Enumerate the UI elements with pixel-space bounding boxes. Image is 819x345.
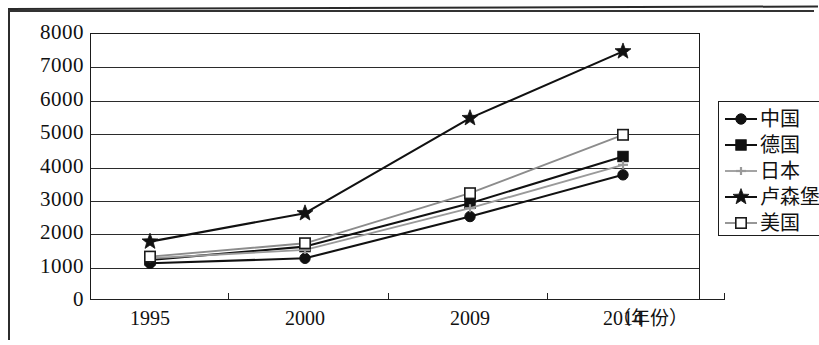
y-axis-tick-label: 6000 [10, 89, 84, 110]
y-axis-tick-label: 1000 [10, 256, 84, 277]
data-point-marker [736, 114, 746, 124]
data-point-marker [142, 233, 158, 248]
legend-item-日本[interactable]: 日本 [724, 158, 800, 184]
data-point-marker [300, 238, 310, 248]
data-point-marker [465, 188, 475, 198]
legend-item-德国[interactable]: 德国 [724, 132, 800, 158]
data-point-marker [615, 43, 631, 58]
legend-item-label: 日本 [760, 161, 800, 181]
x-axis-line [90, 299, 725, 300]
legend-item-label: 美国 [760, 213, 800, 233]
y-axis: 010002000300040005000600070008000 [6, 0, 84, 345]
legend-marker-filled-star-icon [724, 188, 758, 206]
line-chart: 010002000300040005000600070008000 199520… [0, 0, 819, 345]
data-point-marker [465, 211, 475, 221]
data-point-marker [145, 251, 155, 261]
y-axis-tick-label: 3000 [10, 189, 84, 210]
x-axis-tick-label: 1995 [130, 306, 170, 330]
legend-item-中国[interactable]: 中国 [724, 106, 800, 132]
x-axis-tickmark [388, 293, 389, 300]
data-point-marker [736, 167, 746, 175]
series-美国 [145, 130, 628, 262]
legend-marker-gray-cross-icon [724, 162, 758, 180]
legend-marker-open-square-icon [724, 214, 758, 232]
data-point-marker [300, 253, 310, 263]
y-axis-tick-label: 8000 [10, 22, 84, 43]
x-axis: 1995200020092014 [0, 306, 819, 338]
x-axis-tick-label: 2009 [450, 306, 490, 330]
legend-marker-filled-circle-icon [724, 110, 758, 128]
x-axis-tickmark [228, 293, 229, 300]
y-axis-tick-label: 4000 [10, 156, 84, 177]
legend-item-label: 中国 [760, 109, 800, 129]
y-axis-tick-label: 2000 [10, 222, 84, 243]
data-point-marker [733, 189, 749, 204]
data-point-marker [618, 151, 628, 161]
chart-legend: 中国德国日本卢森堡美国 [718, 101, 819, 236]
data-point-marker [736, 140, 746, 150]
legend-item-美国[interactable]: 美国 [724, 210, 800, 236]
series-德国 [145, 151, 628, 265]
y-axis-tick-label: 7000 [10, 55, 84, 76]
x-axis-tickmark [547, 293, 548, 300]
data-point-marker [618, 130, 628, 140]
data-point-marker [297, 205, 313, 220]
y-axis-tick-label: 5000 [10, 122, 84, 143]
x-axis-end-tickmark [724, 293, 725, 300]
legend-item-卢森堡[interactable]: 卢森堡 [724, 184, 819, 210]
legend-marker-filled-square-icon [724, 136, 758, 154]
series-layer [90, 33, 700, 300]
data-point-marker [736, 218, 746, 228]
legend-item-label: 卢森堡 [760, 187, 819, 207]
data-point-marker [618, 170, 628, 180]
x-axis-title: （年份） [612, 305, 688, 331]
legend-item-label: 德国 [760, 135, 800, 155]
x-axis-tick-label: 2000 [285, 306, 325, 330]
data-point-marker [462, 110, 478, 125]
